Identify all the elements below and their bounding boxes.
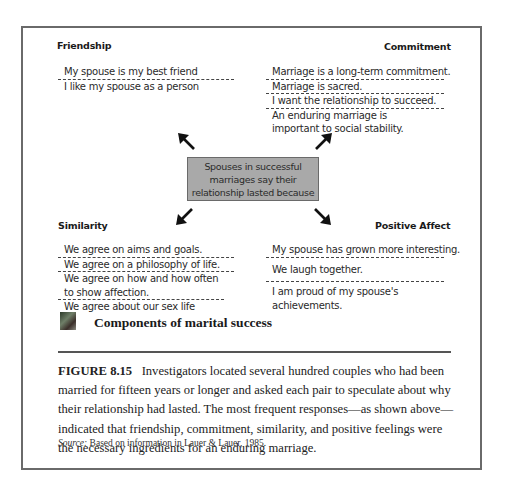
list-item: We agree about our sex life [58, 300, 234, 314]
list-item: Marriage is sacred. [266, 80, 444, 95]
similarity-list: We agree on aims and goals. We agree on … [58, 243, 234, 314]
list-item: We agree on a philosophy of life. [58, 258, 234, 273]
arrow-down-left-icon [174, 205, 196, 227]
arrow-up-right-icon [312, 131, 334, 153]
list-item: Marriage is a long-term commitment. [266, 65, 444, 80]
similarity-heading: Similarity [58, 220, 108, 231]
list-item: We agree on how and how often to show af… [58, 272, 224, 300]
photo-thumbnail-icon [60, 312, 76, 330]
figure-title: Components of marital success [94, 315, 272, 331]
list-item: We laugh together. [266, 263, 444, 283]
list-item: An enduring marriage is important to soc… [266, 109, 432, 136]
arrow-up-left-icon [176, 131, 198, 153]
source-label: Source: [58, 438, 87, 448]
friendship-heading: Friendship [57, 40, 111, 51]
divider [58, 351, 451, 353]
list-item: My spouse is my best friend [58, 65, 234, 80]
commitment-heading: Commitment [384, 41, 451, 52]
figure-source: Source: Based on information in Lauer & … [58, 438, 266, 448]
positive-affect-list: My spouse has grown more interesting. We… [266, 243, 444, 312]
center-box: Spouses in successful marriages say thei… [187, 157, 319, 201]
source-text: Based on information in Lauer & Lauer, 1… [90, 438, 267, 448]
center-line: marriages say their [188, 173, 318, 186]
friendship-list: My spouse is my best friend I like my sp… [58, 65, 234, 93]
list-item: I am proud of my spouse's achievements. [266, 285, 412, 312]
list-item: My spouse has grown more interesting. [266, 243, 444, 258]
center-line: Spouses in successful [188, 160, 318, 173]
center-line: relationship lasted because [188, 186, 318, 199]
list-item: I want the relationship to succeed. [266, 94, 444, 109]
figure-label: FIGURE 8.15 [58, 364, 132, 378]
commitment-list: Marriage is a long-term commitment. Marr… [266, 65, 444, 136]
list-item: I like my spouse as a person [58, 80, 234, 94]
positive-affect-heading: Positive Affect [375, 220, 450, 231]
list-item: We agree on aims and goals. [58, 243, 234, 258]
arrow-down-right-icon [311, 205, 333, 227]
